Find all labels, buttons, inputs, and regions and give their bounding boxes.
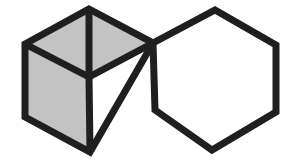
figure-container: Shaded cube joined to an unshaded hexago…: [0, 0, 284, 168]
geometric-figure: [0, 0, 284, 168]
cube-front-vertical-edge: [89, 77, 90, 152]
